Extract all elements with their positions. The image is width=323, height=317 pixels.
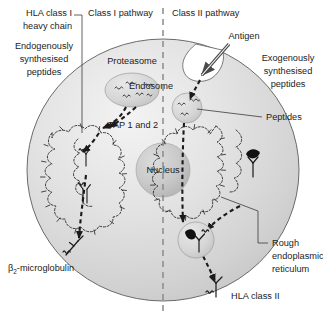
- exogenous-peptides-line1: Exogenously: [262, 53, 315, 63]
- rough-er-line2: endoplasmic: [272, 251, 323, 261]
- loading-vesicle-group: [178, 222, 214, 258]
- tap-label: TAP 1 and 2: [108, 120, 158, 130]
- beta2-microglobulin-label: β2-microglobulin: [8, 263, 74, 275]
- exogenous-peptides-line3: peptides: [271, 79, 306, 89]
- endogenous-peptides-line3: peptides: [27, 67, 62, 77]
- rough-er-line1: Rough: [272, 238, 299, 248]
- hla-class-ii-label: HLA class II: [231, 291, 280, 301]
- antigen-presentation-diagram: Nucleus: [0, 0, 323, 317]
- loading-vesicle: [178, 222, 214, 258]
- exogenous-peptides-line2: synthesised: [264, 66, 313, 76]
- endogenous-peptides-line2: synthesised: [20, 54, 69, 64]
- beta2-microglobulin-rest: -microglobulin: [17, 263, 74, 273]
- endogenous-peptides-line1: Endogenously: [15, 41, 74, 51]
- header-class-ii-pathway: Class II pathway: [172, 8, 240, 18]
- rough-er-line3: reticulum: [272, 264, 310, 274]
- antigen-label: Antigen: [228, 31, 259, 41]
- header-class-i-pathway: Class I pathway: [88, 8, 153, 18]
- proteasome-label: Proteasome: [107, 56, 157, 66]
- diagram-canvas: Nucleus: [0, 0, 323, 317]
- hla-class-i-label-line2: heavy chain: [23, 21, 72, 31]
- endosome-label: Endosome: [129, 81, 173, 91]
- peptides-label: Peptides: [266, 112, 302, 122]
- hla-class-i-label-line1: HLA class I: [26, 8, 72, 18]
- endosome-organelle: [172, 93, 202, 123]
